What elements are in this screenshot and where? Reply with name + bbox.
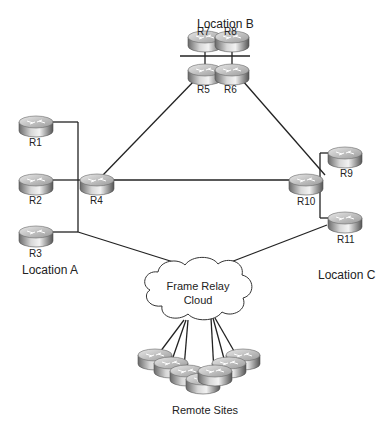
router-r9-icon xyxy=(328,147,362,168)
cloud-label: Frame Relay Cloud xyxy=(158,279,238,307)
router-r3-icon xyxy=(19,226,53,247)
router-r6-icon xyxy=(215,64,249,85)
router-r7-label: R7 xyxy=(197,26,210,37)
router-r11-icon xyxy=(328,212,362,233)
router-r2-icon xyxy=(19,174,53,195)
router-r10-icon xyxy=(289,174,323,195)
router-r8-label: R8 xyxy=(224,26,237,37)
router-r5-label: R5 xyxy=(197,84,210,95)
network-diagram xyxy=(0,0,391,430)
cloud-label-line2: Cloud xyxy=(158,293,238,307)
remote-sites-routers xyxy=(138,349,260,394)
router-r4-label: R4 xyxy=(90,195,103,206)
remote-sites-label: Remote Sites xyxy=(172,404,238,416)
location-a-label: Location A xyxy=(22,263,78,277)
router-r4-icon xyxy=(80,174,114,195)
router-r1-icon xyxy=(19,116,53,137)
location-c-label: Location C xyxy=(318,268,375,282)
links xyxy=(50,45,332,372)
router-r9-label: R9 xyxy=(340,168,353,179)
router-r2-label: R2 xyxy=(29,195,42,206)
router-r1-label: R1 xyxy=(29,137,42,148)
router-r11-label: R11 xyxy=(337,234,355,245)
router-r6-label: R6 xyxy=(224,84,237,95)
router-r10-label: R10 xyxy=(297,196,315,207)
router-r3-label: R3 xyxy=(29,248,42,259)
cloud-label-line1: Frame Relay xyxy=(158,279,238,293)
